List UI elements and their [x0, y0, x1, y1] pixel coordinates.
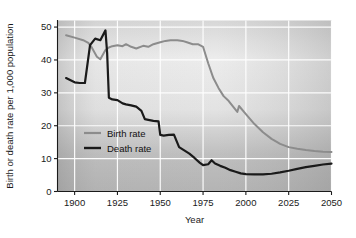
y-tick-label: 0 — [46, 186, 51, 197]
x-axis-title: Year — [185, 214, 204, 225]
x-tick-label: 1925 — [107, 197, 128, 208]
plot-background-shading — [58, 21, 332, 192]
legend-label-birth-rate[interactable]: Birth rate — [107, 128, 146, 139]
x-tick-label: 1950 — [150, 197, 171, 208]
x-tick-label: 2050 — [321, 197, 342, 208]
chart-figure: 010203040501900192519501975200020252050Y… — [0, 0, 356, 238]
x-tick-label: 1975 — [192, 197, 213, 208]
chart-canvas: 010203040501900192519501975200020252050Y… — [0, 0, 356, 238]
y-tick-label: 10 — [41, 153, 52, 164]
y-axis-title: Birth or death rate per 1,000 population — [4, 23, 15, 188]
y-tick-label: 20 — [41, 120, 52, 131]
y-tick-label: 50 — [41, 21, 52, 32]
x-tick-label: 1900 — [64, 197, 85, 208]
y-tick-label: 40 — [41, 54, 52, 65]
y-tick-label: 30 — [41, 87, 52, 98]
x-tick-label: 2025 — [278, 197, 299, 208]
plot-area — [58, 21, 332, 192]
legend-label-death-rate[interactable]: Death rate — [107, 143, 151, 154]
x-tick-label: 2000 — [235, 197, 256, 208]
